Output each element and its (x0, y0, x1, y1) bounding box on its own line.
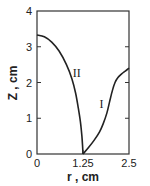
curve-ii (37, 35, 83, 154)
curve-label-ii: II (73, 66, 81, 80)
chart: 0123401.252.5 III r , cm Z , cm (0, 0, 150, 186)
y-tick-label: 2 (26, 77, 32, 89)
y-axis-label: Z , cm (6, 66, 20, 101)
x-axis-label: r , cm (67, 170, 99, 184)
tick-labels: 0123401.252.5 (26, 5, 137, 169)
x-tick-label: 0 (34, 157, 40, 169)
curve-i (83, 68, 129, 154)
y-tick-label: 0 (26, 148, 32, 160)
y-tick-label: 1 (26, 112, 32, 124)
x-tick-label: 2.5 (121, 157, 136, 169)
x-tick-label: 1.25 (72, 157, 93, 169)
y-tick-label: 3 (26, 41, 32, 53)
y-tick-label: 4 (26, 5, 32, 17)
curves (37, 35, 129, 154)
ticks (37, 47, 129, 154)
curve-label-i: I (99, 97, 103, 111)
